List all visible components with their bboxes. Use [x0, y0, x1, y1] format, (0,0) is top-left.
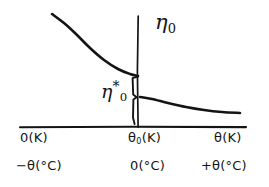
x-axis-line — [20, 127, 246, 128]
eta-subscript: 0 — [168, 21, 177, 36]
eta-subscript: 0 — [120, 90, 128, 104]
eta-zero-star-label: η*0 — [101, 79, 127, 104]
x-tick-label-theta-kelvin: θ(K) — [214, 131, 241, 144]
eta-zero-axis-label: η0 — [155, 12, 176, 35]
x-tick-label-negative-theta-celsius: −θ(°C) — [16, 159, 62, 172]
x-tick-label-positive-theta-celsius: +θ(°C) — [201, 159, 247, 172]
vertical-axis-line — [137, 16, 138, 127]
upper-branch-curve — [52, 14, 138, 76]
eta-symbol: η — [101, 80, 112, 102]
x-tick-label-theta-zero-kelvin: θ0(K) — [128, 131, 161, 146]
lower-branch-curve — [140, 97, 240, 113]
star-superscript: * — [112, 78, 119, 94]
kelvin-unit: (K) — [142, 130, 161, 145]
x-tick-label-zero-kelvin: 0(K) — [20, 131, 48, 144]
theta-symbol: θ — [128, 130, 136, 145]
viscosity-temperature-figure: η0 η*0 0(K) θ0(K) θ(K) −θ(°C) 0(°C) +θ(°… — [0, 0, 269, 187]
eta-symbol: η — [155, 10, 168, 34]
x-tick-label-zero-celsius: 0(°C) — [130, 159, 165, 172]
